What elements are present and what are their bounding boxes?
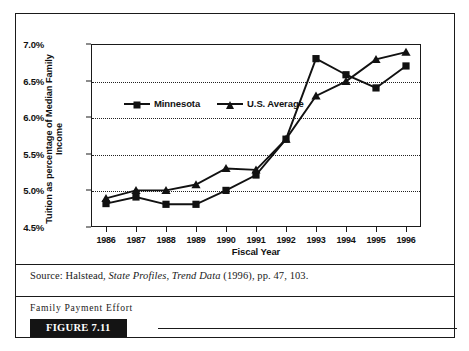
y-tick-mark: [86, 153, 91, 154]
x-tick-label: 1993: [306, 235, 325, 245]
square-marker-icon: [134, 101, 141, 108]
gridline: [92, 82, 420, 83]
x-tick-label: 1994: [336, 235, 355, 245]
x-axis-title: Fiscal Year: [91, 246, 421, 257]
legend-item-minnesota: Minnesota: [124, 98, 200, 109]
y-tick-mark: [86, 44, 91, 45]
y-tick-mark: [86, 227, 91, 228]
y-tick-label: 6.0%: [23, 112, 44, 123]
x-tick-mark: [106, 227, 107, 232]
x-tick-label: 1990: [216, 235, 235, 245]
y-axis-title: Tuition as percentage of Median Family I…: [44, 39, 64, 239]
chart-area: Tuition as percentage of Median Family I…: [16, 14, 456, 264]
x-tick-label: 1995: [366, 235, 385, 245]
source-note: Source: Halstead, State Profiles, Trend …: [30, 270, 308, 281]
x-tick-mark: [256, 227, 257, 232]
legend-item-us-average: U.S. Average: [217, 98, 304, 109]
x-tick-label: 1986: [96, 235, 115, 245]
triangle-marker-icon: [226, 101, 234, 109]
x-tick-mark: [196, 227, 197, 232]
x-tick-mark: [316, 227, 317, 232]
figure-page: Tuition as percentage of Median Family I…: [0, 0, 469, 351]
x-tick-mark: [136, 227, 137, 232]
x-tick-label: 1991: [246, 235, 265, 245]
source-italic-title: State Profiles, Trend Data: [109, 270, 221, 281]
x-tick-mark: [226, 227, 227, 232]
gridline: [92, 191, 420, 192]
figure-badge-rule: [158, 328, 457, 329]
legend-line-us-average: [217, 103, 243, 105]
legend-label-minnesota: Minnesota: [154, 98, 200, 109]
y-tick-label: 4.5%: [23, 222, 44, 233]
caption-divider: [16, 296, 454, 297]
legend-line-minnesota: [124, 103, 150, 105]
x-tick-label: 1988: [156, 235, 175, 245]
x-tick-mark: [406, 227, 407, 232]
source-prefix: Source: Halstead,: [30, 270, 106, 281]
x-tick-label: 1996: [396, 235, 415, 245]
source-divider: [16, 264, 454, 265]
y-tick-label: 7.0%: [23, 39, 44, 50]
x-tick-mark: [286, 227, 287, 232]
legend-label-us-average: U.S. Average: [247, 98, 304, 109]
x-tick-label: 1987: [126, 235, 145, 245]
source-suffix: (1996), pp. 47, 103.: [223, 270, 308, 281]
figure-frame: Tuition as percentage of Median Family I…: [15, 13, 455, 338]
y-tick-mark: [86, 117, 91, 118]
x-tick-mark: [376, 227, 377, 232]
gridline: [92, 155, 420, 156]
x-tick-label: 1989: [186, 235, 205, 245]
y-tick-mark: [86, 80, 91, 81]
chart-legend: Minnesota U.S. Average: [124, 98, 304, 109]
x-tick-label: 1992: [276, 235, 295, 245]
figure-badge-row: FIGURE 7.11: [30, 319, 440, 339]
y-tick-mark: [86, 190, 91, 191]
figure-number-badge: FIGURE 7.11: [30, 319, 127, 337]
y-tick-label: 6.5%: [23, 75, 44, 86]
x-tick-mark: [346, 227, 347, 232]
figure-caption: Family Payment Effort: [30, 302, 133, 313]
x-tick-mark: [166, 227, 167, 232]
gridline: [92, 118, 420, 119]
plot-area: [91, 44, 421, 227]
y-tick-label: 5.5%: [23, 148, 44, 159]
y-tick-label: 5.0%: [23, 185, 44, 196]
